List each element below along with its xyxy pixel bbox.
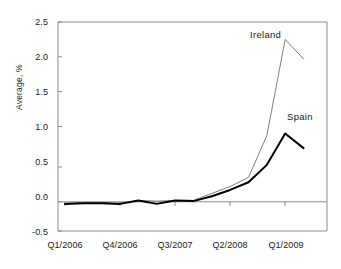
series-line-spain [65,133,304,203]
chart-container: Average, % 2.5 2.0 1.5 1.0 0.5 0.0 -0.5 … [0,0,341,269]
series-line-ireland [65,39,304,203]
y-tick-marks [58,22,62,231]
plot-frame [58,22,327,231]
plot-svg [0,0,341,269]
